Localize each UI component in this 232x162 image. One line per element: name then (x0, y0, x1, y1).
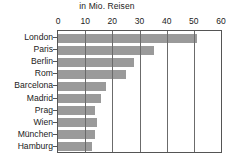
y-tick-label: Paris (33, 44, 53, 54)
bar (58, 118, 97, 127)
bar (58, 58, 134, 67)
gridline (140, 31, 141, 152)
x-tick-label: 0 (56, 16, 61, 26)
bar (58, 130, 95, 139)
y-tick-mark (53, 49, 57, 50)
y-tick-mark (53, 134, 57, 135)
bar (58, 142, 92, 151)
y-tick-label: Prag (35, 105, 53, 115)
x-tick-label: 10 (80, 16, 89, 26)
gridline (194, 31, 195, 152)
bar (58, 106, 95, 115)
y-tick-label: München (18, 129, 53, 139)
chart-title: in Mio. Reisen (0, 1, 232, 11)
x-tick-label: 20 (108, 16, 117, 26)
gridline (112, 31, 113, 152)
y-axis-category-labels: LondonParisBerlinRomBarcelonaMadridPragW… (0, 30, 53, 153)
y-tick-mark (53, 73, 57, 74)
x-axis-tick-labels: 0102030405060 (0, 16, 232, 27)
y-tick-mark (53, 146, 57, 147)
y-tick-label: Berlin (31, 56, 53, 66)
bar (58, 94, 101, 103)
y-tick-label: Madrid (27, 93, 53, 103)
gridline (167, 31, 168, 152)
y-tick-label: London (24, 32, 53, 42)
y-tick-mark (53, 122, 57, 123)
bar-chart: in Mio. Reisen 0102030405060 LondonParis… (0, 0, 232, 162)
y-tick-label: Wien (33, 117, 53, 127)
gridline (85, 31, 86, 152)
bar (58, 34, 197, 43)
bar (58, 70, 126, 79)
y-tick-label: Rom (35, 68, 53, 78)
y-tick-mark (53, 110, 57, 111)
y-tick-mark (53, 61, 57, 62)
x-tick-label: 30 (135, 16, 144, 26)
bar (58, 82, 106, 91)
plot-area (57, 30, 222, 153)
y-tick-mark (53, 98, 57, 99)
y-tick-mark (53, 85, 57, 86)
x-tick-label: 60 (216, 16, 225, 26)
y-tick-mark (53, 37, 57, 38)
x-tick-label: 50 (189, 16, 198, 26)
y-tick-label: Barcelona (14, 80, 53, 90)
y-tick-label: Hamburg (18, 141, 53, 151)
x-tick-label: 40 (162, 16, 171, 26)
